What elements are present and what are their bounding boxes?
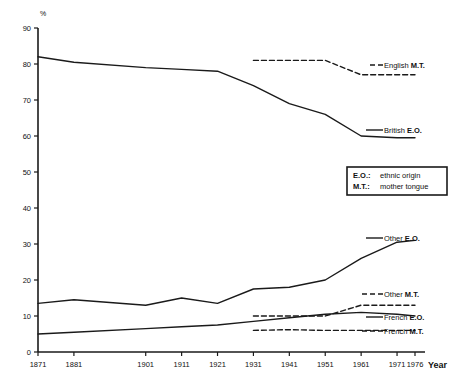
series-label-abbrev: M.T. (409, 327, 423, 336)
series-label-abbrev: M.T. (405, 290, 419, 299)
series-label-name: English (384, 61, 411, 70)
series-label-abbrev: E.O. (407, 126, 422, 135)
line-chart: 0102030405060708090%18711881190119111921… (0, 0, 455, 375)
x-tick-label-1931: 1931 (245, 360, 262, 369)
series-label-british-e-o: British E.O. (384, 126, 422, 135)
legend-definition-eo: ethnic origin (380, 171, 420, 180)
series-label-abbrev: M.T. (411, 61, 425, 70)
series-label-french-m-t: French M.T. (384, 327, 424, 336)
y-tick-label-30: 30 (23, 240, 31, 249)
x-tick-label-1941: 1941 (281, 360, 298, 369)
y-tick-label-60: 60 (23, 132, 31, 141)
x-tick-label-1976: 1976 (407, 360, 424, 369)
series-label-abbrev: E.O. (409, 313, 424, 322)
series-label-other-e-o: Other E.O. (384, 234, 420, 243)
y-tick-label-0: 0 (27, 348, 31, 357)
x-axis-title: Year (428, 360, 448, 370)
series-label-name: French (384, 327, 409, 336)
x-tick-label-1911: 1911 (174, 360, 190, 369)
series-label-english-m-t: English M.T. (384, 61, 425, 70)
x-tick-label-1971: 1971 (389, 360, 406, 369)
y-tick-label-50: 50 (23, 168, 31, 177)
series-label-other-m-t: Other M.T. (384, 290, 419, 299)
series-line-other-e-o (38, 240, 415, 305)
legend-abbrev-eo: E.O.: (353, 171, 371, 180)
y-tick-label-10: 10 (23, 312, 31, 321)
x-tick-label-1881: 1881 (66, 360, 83, 369)
series-label-name: Other (384, 290, 405, 299)
x-tick-label-1951: 1951 (317, 360, 334, 369)
series-label-french-e-o: French E.O. (384, 313, 424, 322)
legend-abbrev-mt: M.T.: (353, 182, 370, 191)
x-tick-label-1921: 1921 (209, 360, 226, 369)
chart-container: 0102030405060708090%18711881190119111921… (0, 0, 455, 375)
x-tick-label-1871: 1871 (30, 360, 47, 369)
series-label-name: British (384, 126, 407, 135)
x-tick-label-1901: 1901 (137, 360, 154, 369)
y-tick-label-90: 90 (23, 24, 31, 33)
y-axis-unit-label: % (40, 10, 46, 17)
x-tick-label-1961: 1961 (353, 360, 370, 369)
series-label-abbrev: E.O. (405, 234, 420, 243)
y-tick-label-70: 70 (23, 96, 31, 105)
y-tick-label-80: 80 (23, 60, 31, 69)
series-label-name: French (384, 313, 409, 322)
legend-definition-mt: mother tongue (380, 182, 428, 191)
series-line-british-e-o (38, 57, 415, 138)
y-tick-label-20: 20 (23, 276, 31, 285)
series-label-name: Other (384, 234, 405, 243)
y-tick-label-40: 40 (23, 204, 31, 213)
